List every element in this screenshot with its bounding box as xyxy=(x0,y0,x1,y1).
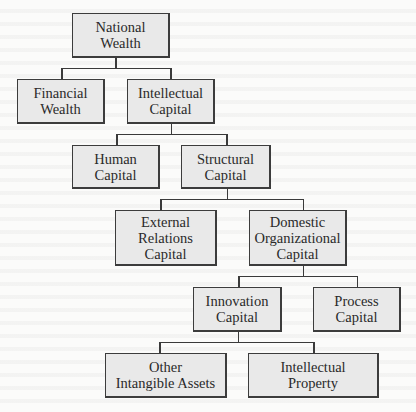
connector xyxy=(238,332,240,342)
connector xyxy=(159,342,314,344)
node-innovation-capital: Innovation Capital xyxy=(193,287,282,332)
connector xyxy=(226,134,228,145)
node-other-intangible-assets: Other Intangible Assets xyxy=(105,353,227,398)
page-bleed-through-texture xyxy=(0,0,416,412)
connector xyxy=(238,276,240,287)
connector xyxy=(227,189,229,199)
connector xyxy=(303,266,305,276)
node-financial-wealth: Financial Wealth xyxy=(17,79,105,124)
connector xyxy=(171,124,173,134)
connector xyxy=(159,342,161,353)
connector xyxy=(116,134,118,145)
node-intellectual-property: Intellectual Property xyxy=(248,353,379,398)
node-human-capital: Human Capital xyxy=(72,145,160,189)
connector xyxy=(61,68,63,79)
connector xyxy=(238,276,358,278)
connector xyxy=(170,68,172,79)
connector xyxy=(61,68,171,70)
node-intellectual-capital: Intellectual Capital xyxy=(127,79,215,124)
connector xyxy=(115,58,117,68)
connector xyxy=(116,134,227,136)
node-domestic-organizational-capital: Domestic Organizational Capital xyxy=(249,210,347,266)
connector xyxy=(313,342,315,353)
connector xyxy=(303,199,305,210)
node-structural-capital: Structural Capital xyxy=(181,145,271,189)
connector xyxy=(357,276,359,287)
connector xyxy=(160,199,304,201)
node-external-relations-capital: External Relations Capital xyxy=(115,210,217,266)
node-process-capital: Process Capital xyxy=(313,287,401,332)
node-national-wealth: National Wealth xyxy=(72,13,170,58)
connector xyxy=(160,199,162,210)
